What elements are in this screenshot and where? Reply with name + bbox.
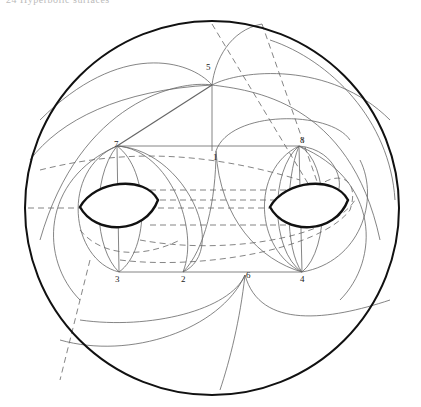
- vertex-label-7: 7: [114, 139, 119, 149]
- vertex-label-4: 4: [300, 274, 305, 284]
- vertex-label-6: 6: [246, 270, 251, 280]
- left-hole: [80, 184, 158, 227]
- vertex-label-1: 1: [213, 152, 218, 162]
- vertex-label-2: 2: [181, 274, 186, 284]
- vertex-label-5: 5: [206, 62, 211, 72]
- hyperbolic-surface-diagram: 1 2 3 4 5 6 7 8: [0, 0, 421, 407]
- vertex-label-8: 8: [300, 135, 305, 145]
- vertex-label-3: 3: [115, 274, 120, 284]
